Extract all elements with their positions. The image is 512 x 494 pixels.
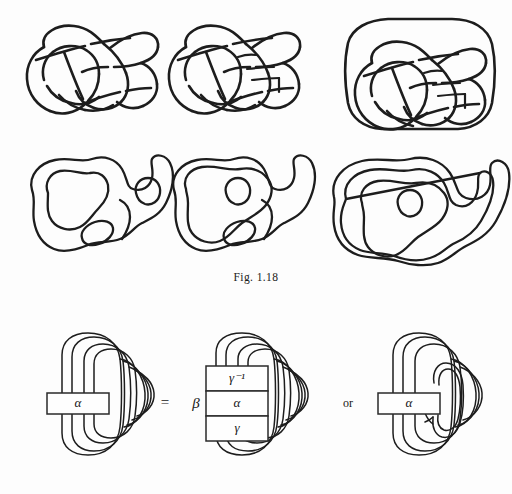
- equals-sign: =: [161, 394, 169, 410]
- knot-diagram-2: [169, 26, 300, 114]
- surface-diagram-1: [31, 156, 173, 251]
- figure-caption: Fig. 1.18: [0, 271, 512, 283]
- or-text: or: [343, 396, 353, 410]
- tangle-equation: α = β γ⁻¹ α γ or: [0, 325, 512, 490]
- alpha-box-right-label: α: [406, 395, 414, 410]
- middle-tangle: γ⁻¹ α γ: [206, 333, 308, 455]
- surface-diagram-3: [333, 158, 509, 265]
- right-tangle: α: [378, 333, 482, 455]
- gamma-box-label: γ: [234, 420, 240, 435]
- surface-diagram-2: [173, 156, 315, 251]
- gamma-inverse-box-label: γ⁻¹: [229, 370, 245, 385]
- knot-diagram-1: [27, 26, 158, 114]
- alpha-box-middle-label: α: [234, 395, 242, 410]
- knot-diagrams-row: [0, 0, 512, 145]
- knot-diagram-3: [345, 19, 494, 129]
- beta-label: β: [191, 395, 200, 411]
- alpha-box-left-label: α: [75, 395, 83, 410]
- textbook-page: Fig. 1.18 α = β: [0, 0, 512, 494]
- surface-diagrams-row: [0, 145, 512, 270]
- left-tangle: α: [47, 333, 154, 455]
